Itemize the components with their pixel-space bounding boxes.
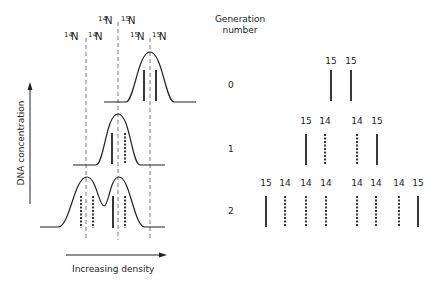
band-label: 15 <box>300 116 311 126</box>
iso-bot-1-el: N <box>71 31 78 42</box>
band-label: 14 <box>393 178 405 188</box>
isotope-header-bottom: 14 N 14 N 15 N 15 N <box>64 31 166 42</box>
band-label: 14 <box>351 178 363 188</box>
band-label: 14 <box>300 178 312 188</box>
iso-top-1-el: N <box>105 15 112 26</box>
y-axis-label: DNA concentration <box>16 100 26 185</box>
band-label: 15 <box>371 116 382 126</box>
reference-lines <box>86 22 150 240</box>
arrow-up-icon <box>28 82 33 90</box>
arrow-right-icon <box>159 253 167 258</box>
generation-2-bands: 15 14 14 14 14 14 14 15 <box>260 178 423 227</box>
band-label: 15 <box>412 178 423 188</box>
density-curve-gen1 <box>73 114 165 165</box>
generation-number-1: 1 <box>228 144 234 154</box>
band-label: 14 <box>320 178 332 188</box>
band-label: 14 <box>351 116 363 126</box>
band-label: 15 <box>345 56 356 66</box>
iso-bot-4-el: N <box>159 31 166 42</box>
band-label: 14 <box>370 178 382 188</box>
isotope-header-top: 14 N 15 N <box>98 15 135 26</box>
generation-1-bands: 15 14 14 15 <box>300 116 382 165</box>
iso-bot-2-el: N <box>95 31 102 42</box>
band-label: 14 <box>319 116 331 126</box>
generation-header-line1: Generation <box>215 14 265 24</box>
y-axis: DNA concentration <box>16 82 33 204</box>
band-label: 15 <box>260 178 271 188</box>
generation-header: Generation number <box>215 14 265 35</box>
iso-bot-3-el: N <box>137 31 144 42</box>
generation-header-line2: number <box>222 25 257 35</box>
iso-top-2-el: N <box>128 15 135 26</box>
generation-number-2: 2 <box>228 206 234 216</box>
generation-0-bands: 15 15 <box>325 56 356 101</box>
density-curve-gen2 <box>40 177 165 228</box>
band-label: 14 <box>279 178 291 188</box>
x-axis: Increasing density <box>66 253 167 275</box>
x-axis-label: Increasing density <box>72 264 155 274</box>
band-label: 15 <box>325 56 336 66</box>
density-gradient-diagram: 14 N 15 N 14 N 14 N 15 N 15 N DNA concen… <box>0 0 439 283</box>
generation-number-0: 0 <box>228 80 234 90</box>
